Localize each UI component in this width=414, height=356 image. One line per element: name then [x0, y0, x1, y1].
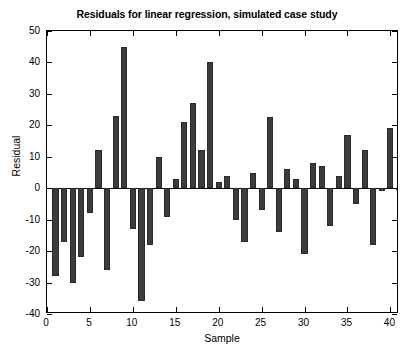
y-tick-label: -10	[26, 213, 40, 224]
bar	[121, 47, 127, 189]
y-tick	[392, 31, 397, 32]
x-tick	[176, 31, 177, 36]
x-tick-label: 30	[298, 317, 309, 328]
x-tick-label: 35	[341, 317, 352, 328]
bar	[379, 188, 385, 191]
x-tick	[305, 307, 306, 312]
y-tick-label: 0	[34, 182, 40, 193]
y-tick	[47, 125, 52, 126]
y-tick	[392, 157, 397, 158]
y-tick	[47, 188, 52, 189]
y-axis-tick-labels: -40-30-20-1001020304050	[0, 30, 44, 313]
bar	[336, 176, 342, 189]
bar	[78, 188, 84, 257]
x-tick	[90, 31, 91, 36]
x-tick	[262, 31, 263, 36]
y-tick-label: -30	[26, 276, 40, 287]
x-tick-label: 40	[384, 317, 395, 328]
y-tick-label: 40	[29, 56, 40, 67]
x-tick-label: 10	[126, 317, 137, 328]
y-tick	[47, 283, 52, 284]
y-tick	[392, 188, 397, 189]
bar	[190, 103, 196, 188]
y-tick-label: -20	[26, 245, 40, 256]
bar	[207, 62, 213, 188]
bar	[370, 188, 376, 245]
x-tick	[47, 31, 48, 36]
bar	[293, 179, 299, 188]
bar	[156, 157, 162, 188]
x-tick	[133, 307, 134, 312]
y-tick	[47, 251, 52, 252]
y-tick	[47, 62, 52, 63]
x-tick	[219, 307, 220, 312]
bar	[138, 188, 144, 301]
y-tick	[47, 220, 52, 221]
x-tick	[262, 307, 263, 312]
bar	[301, 188, 307, 254]
bar	[173, 179, 179, 188]
y-tick-label: 30	[29, 87, 40, 98]
bar	[259, 188, 265, 210]
bar	[70, 188, 76, 282]
bar	[95, 150, 101, 188]
bar	[233, 188, 239, 219]
bar	[353, 188, 359, 204]
y-tick-label: -40	[26, 308, 40, 319]
bar	[52, 188, 58, 276]
y-tick	[392, 251, 397, 252]
bar	[87, 188, 93, 213]
x-tick	[390, 307, 391, 312]
x-tick-label: 5	[86, 317, 92, 328]
y-tick	[47, 94, 52, 95]
y-tick	[392, 125, 397, 126]
zero-line	[47, 188, 397, 189]
x-tick	[47, 307, 48, 312]
bar	[267, 117, 273, 188]
x-tick	[347, 307, 348, 312]
bar	[61, 188, 67, 241]
y-tick-label: 50	[29, 25, 40, 36]
x-tick-label: 25	[255, 317, 266, 328]
bar	[164, 188, 170, 216]
x-tick	[347, 31, 348, 36]
bar	[284, 169, 290, 188]
y-tick	[392, 283, 397, 284]
bar	[104, 188, 110, 270]
x-tick-label: 0	[43, 317, 49, 328]
chart-figure: Residuals for linear regression, simulat…	[0, 0, 414, 356]
x-tick	[390, 31, 391, 36]
plot-area	[46, 30, 398, 313]
bar	[216, 182, 222, 188]
x-tick-label: 15	[169, 317, 180, 328]
bar	[198, 150, 204, 188]
bar	[327, 188, 333, 226]
bar	[113, 116, 119, 188]
bar	[319, 166, 325, 188]
bar	[362, 150, 368, 188]
x-tick-label: 20	[212, 317, 223, 328]
bar	[241, 188, 247, 241]
x-axis-tick-labels: 0510152025303540	[46, 313, 398, 331]
y-tick	[392, 220, 397, 221]
y-axis-title: Residual	[10, 116, 22, 196]
bar	[224, 176, 230, 189]
x-tick	[219, 31, 220, 36]
x-axis-title: Sample	[46, 332, 398, 344]
y-tick-label: 10	[29, 150, 40, 161]
bar	[387, 128, 393, 188]
bar	[344, 135, 350, 188]
y-tick-label: 20	[29, 119, 40, 130]
y-tick	[392, 62, 397, 63]
x-tick	[176, 307, 177, 312]
y-tick	[47, 157, 52, 158]
bar	[147, 188, 153, 245]
chart-title: Residuals for linear regression, simulat…	[0, 8, 414, 20]
bar	[310, 163, 316, 188]
bar	[181, 122, 187, 188]
x-tick	[90, 307, 91, 312]
bar	[250, 173, 256, 189]
bar	[130, 188, 136, 229]
x-tick	[305, 31, 306, 36]
x-tick	[133, 31, 134, 36]
